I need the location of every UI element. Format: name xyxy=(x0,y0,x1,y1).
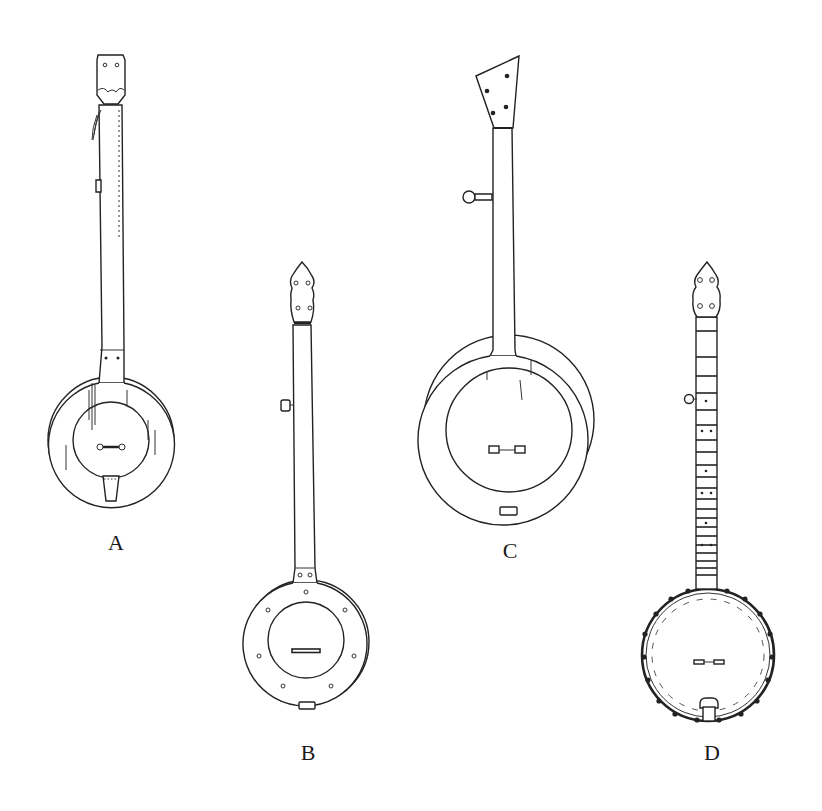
banjo-c-drawing xyxy=(418,56,594,525)
label-a: A xyxy=(108,532,124,554)
label-c: C xyxy=(503,540,518,562)
banjo-d-drawing xyxy=(641,262,774,723)
banjo-drawings xyxy=(0,0,822,811)
banjo-figure: A B C D xyxy=(0,0,822,811)
banjo-b-drawing xyxy=(243,262,369,709)
label-d: D xyxy=(704,742,720,764)
label-b: B xyxy=(301,742,316,764)
banjo-a-drawing xyxy=(48,55,175,508)
